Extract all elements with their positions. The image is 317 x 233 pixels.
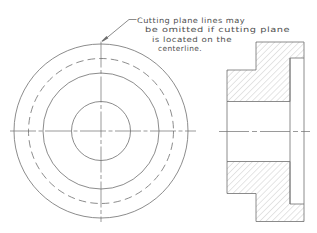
- section-upper-hatched-area: [227, 42, 304, 102]
- drawing-canvas: Cutting plane lines may be omitted if cu…: [0, 0, 317, 233]
- note-line-2: be omitted if cutting plane: [145, 25, 290, 34]
- front-view: [10, 42, 196, 223]
- section-view: [219, 42, 310, 222]
- note-line-1: Cutting plane lines may: [137, 16, 245, 25]
- leader: [102, 20, 137, 43]
- note-line-4: centerline.: [158, 44, 202, 53]
- technical-drawing-page: Cutting plane lines may be omitted if cu…: [0, 0, 317, 233]
- note-line-3: is located on the: [152, 35, 232, 44]
- section-lower-hatched-area: [227, 162, 304, 222]
